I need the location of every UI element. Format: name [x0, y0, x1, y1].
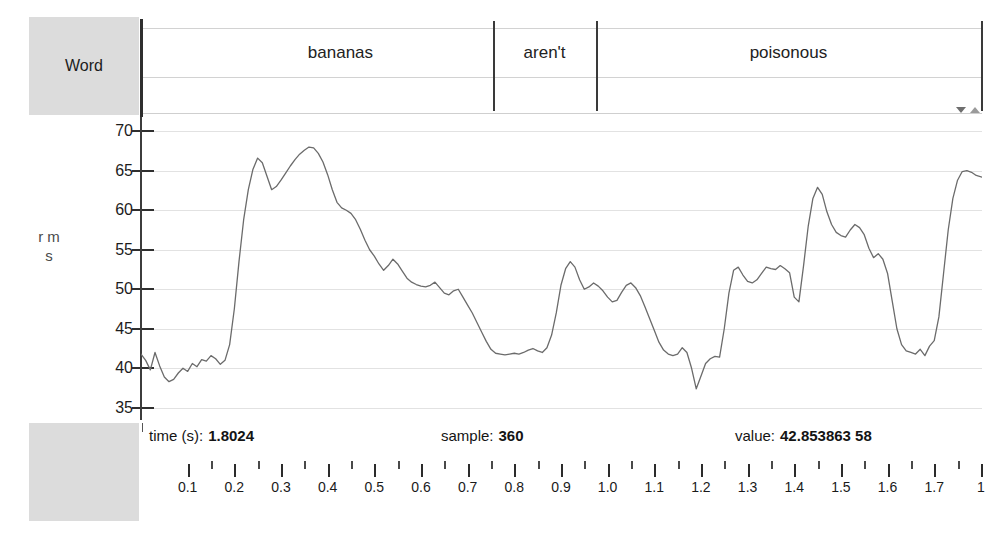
time-tick-minor — [398, 461, 400, 469]
status-time-value: 1.8024 — [203, 427, 254, 444]
time-tick-label: 1.2 — [681, 479, 721, 495]
time-tick-major — [514, 464, 516, 477]
status-sample-key: sample: — [441, 427, 494, 444]
y-tick-label: 40 — [99, 359, 133, 377]
status-time-key: time (s): — [149, 427, 203, 444]
tier-name-cell[interactable]: Word — [29, 17, 139, 115]
tier-guide-line-top — [141, 28, 982, 29]
time-tick-minor — [444, 461, 446, 469]
time-tick-minor — [911, 461, 913, 469]
status-value-key: value: — [735, 427, 775, 444]
status-sample: sample:360 — [441, 427, 524, 444]
time-tick-major — [794, 464, 796, 477]
tier-segment-label[interactable]: poisonous — [596, 37, 981, 69]
time-tick-major — [608, 464, 610, 477]
time-tick-major — [934, 464, 936, 477]
time-tick-major — [701, 464, 703, 477]
time-tick-label: 1.6 — [868, 479, 908, 495]
status-caret — [142, 423, 143, 432]
word-tier-row: Word bananasaren'tpoisonous — [29, 17, 982, 115]
time-tick-minor — [584, 461, 586, 469]
y-tick-label: 60 — [99, 201, 133, 219]
time-tick-minor — [771, 461, 773, 469]
tier-name-label: Word — [65, 57, 103, 75]
time-tick-label: 1.7 — [914, 479, 954, 495]
y-axis-tick-labels: 7065605550454035 — [87, 117, 133, 422]
y-tick-label: 55 — [99, 241, 133, 259]
time-tick-major — [888, 464, 890, 477]
status-value-value: 42.853863 58 — [775, 427, 872, 444]
time-tick-label: 0.4 — [308, 479, 348, 495]
status-time: time (s):1.8024 — [149, 427, 254, 444]
time-tick-major — [421, 464, 423, 477]
time-tick-major — [654, 464, 656, 477]
time-tick-label: 1.0 — [588, 479, 628, 495]
rms-trace-path — [141, 147, 982, 389]
time-tick-minor — [538, 461, 540, 469]
time-tick-label: 0.5 — [354, 479, 394, 495]
tier-content-area[interactable]: bananasaren'tpoisonous — [141, 17, 982, 115]
y-tick-label: 70 — [99, 122, 133, 140]
time-tick-minor — [491, 461, 493, 469]
time-tick-minor — [351, 461, 353, 469]
time-tick-minor — [258, 461, 260, 469]
tier-boundary[interactable] — [981, 21, 983, 111]
time-tick-label: 0.7 — [448, 479, 488, 495]
time-tick-minor — [678, 461, 680, 469]
status-sample-value: 360 — [494, 427, 524, 444]
time-tick-minor — [864, 461, 866, 469]
time-tick-major — [981, 464, 983, 477]
y-tick-label: 50 — [99, 280, 133, 298]
scroll-up-icon[interactable] — [970, 107, 980, 113]
rms-trace — [141, 117, 982, 422]
time-tick-minor — [818, 461, 820, 469]
tier-segment-label[interactable]: bananas — [188, 37, 494, 69]
tier-bottom-edge — [141, 113, 982, 114]
time-tick-major — [748, 464, 750, 477]
tier-guide-line-bottom — [141, 77, 982, 78]
time-tick-label: 1.4 — [774, 479, 814, 495]
time-tick-label: 0.6 — [401, 479, 441, 495]
y-tick-label: 45 — [99, 320, 133, 338]
tier-start-boundary[interactable] — [140, 19, 143, 119]
time-tick-label: 1.5 — [821, 479, 861, 495]
time-axis[interactable]: 0.10.20.30.40.50.60.70.80.91.01.11.21.31… — [29, 453, 982, 521]
time-tick-label: 1 — [961, 479, 995, 495]
time-tick-major — [374, 464, 376, 477]
time-tick-major — [468, 464, 470, 477]
time-tick-label: 0.9 — [541, 479, 581, 495]
time-tick-label: 0.1 — [168, 479, 208, 495]
tier-scroll-marks[interactable] — [956, 107, 980, 113]
status-bar: time (s):1.8024 sample:360 value:42.8538… — [29, 423, 982, 453]
time-tick-label: 1.1 — [634, 479, 674, 495]
time-tick-label: 1.3 — [728, 479, 768, 495]
time-tick-major — [561, 464, 563, 477]
status-value: value:42.853863 58 — [735, 427, 872, 444]
time-tick-minor — [958, 461, 960, 469]
time-tick-label: 0.8 — [494, 479, 534, 495]
time-tick-major — [234, 464, 236, 477]
tier-segment-label[interactable]: aren't — [493, 37, 596, 69]
time-tick-minor — [304, 461, 306, 469]
time-tick-label: 0.3 — [261, 479, 301, 495]
time-tick-major — [328, 464, 330, 477]
time-tick-major — [281, 464, 283, 477]
time-tick-minor — [631, 461, 633, 469]
y-tick-label: 35 — [99, 399, 133, 417]
status-left-panel — [29, 423, 139, 453]
time-tick-minor — [211, 461, 213, 469]
intensity-plot-area[interactable]: r m s 7065605550454035 — [29, 117, 982, 422]
time-tick-minor — [724, 461, 726, 469]
scroll-down-icon[interactable] — [956, 107, 966, 113]
y-tick-label: 65 — [99, 162, 133, 180]
time-axis-left-panel — [29, 453, 139, 521]
time-tick-major — [188, 464, 190, 477]
y-axis-title: r m s — [38, 227, 60, 265]
speech-analysis-window: Word bananasaren'tpoisonous r m s 706560… — [0, 0, 995, 543]
time-tick-major — [841, 464, 843, 477]
time-tick-label: 0.2 — [214, 479, 254, 495]
